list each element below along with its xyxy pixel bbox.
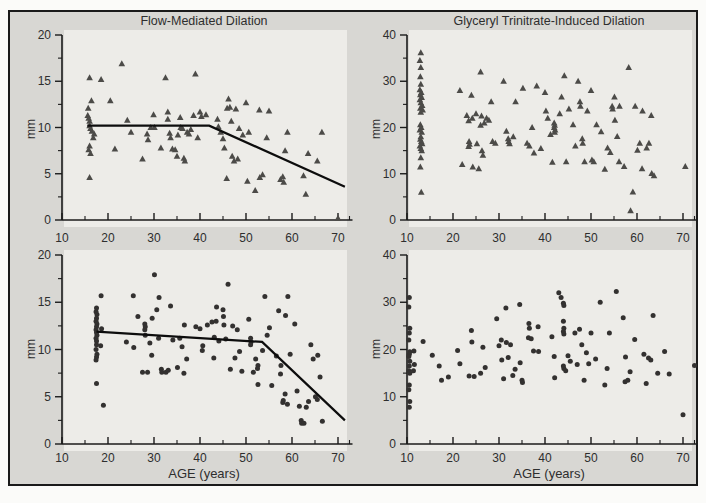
data-point — [582, 378, 587, 383]
svg-text:40: 40 — [538, 231, 552, 245]
data-point — [228, 367, 233, 372]
data-point — [527, 326, 532, 331]
data-point — [662, 349, 667, 354]
data-point — [152, 272, 157, 277]
svg-text:20: 20 — [38, 28, 52, 42]
data-point — [536, 324, 541, 329]
data-point — [411, 368, 416, 373]
data-point — [518, 360, 523, 365]
data-point — [285, 294, 290, 299]
svg-text:70: 70 — [331, 231, 345, 245]
svg-text:40: 40 — [193, 231, 207, 245]
data-point — [198, 326, 203, 331]
data-point — [304, 405, 309, 410]
data-point — [94, 357, 99, 362]
data-point — [255, 366, 260, 371]
data-point — [584, 350, 589, 355]
data-point — [292, 321, 297, 326]
data-point — [181, 371, 186, 376]
data-point — [513, 367, 518, 372]
svg-text:10: 10 — [55, 451, 69, 465]
svg-text:60: 60 — [630, 231, 644, 245]
data-point — [681, 412, 686, 417]
data-point — [517, 302, 522, 307]
panel-fmd-female: ♀ mm 0510152010203040506070 AGE (years) — [10, 250, 355, 486]
data-point — [278, 363, 283, 368]
data-point — [439, 378, 444, 383]
data-point — [124, 339, 129, 344]
data-point — [407, 295, 412, 300]
data-point — [467, 373, 472, 378]
svg-text:50: 50 — [584, 231, 598, 245]
data-point — [667, 372, 672, 377]
data-point — [407, 364, 412, 369]
data-point — [499, 338, 504, 343]
data-point — [200, 348, 205, 353]
data-point — [306, 399, 311, 404]
data-point — [94, 381, 99, 386]
data-point — [520, 380, 525, 385]
data-point — [265, 333, 270, 338]
data-point — [430, 353, 435, 358]
data-point — [552, 354, 557, 359]
data-point — [531, 348, 536, 353]
data-point — [469, 328, 474, 333]
x-axis-label: AGE (years) — [407, 466, 691, 481]
svg-text:70: 70 — [331, 451, 345, 465]
data-point — [101, 403, 106, 408]
panel-gtn-female: ♀ mm 01020304010203040506070 AGE (years) — [355, 250, 700, 486]
data-point — [248, 342, 253, 347]
data-point — [288, 352, 293, 357]
data-point — [184, 356, 189, 361]
svg-text:0: 0 — [389, 213, 396, 227]
svg-text:5: 5 — [44, 167, 51, 181]
data-point — [598, 300, 603, 305]
data-point — [157, 295, 162, 300]
data-point — [651, 313, 656, 318]
data-point — [575, 362, 580, 367]
figure-page: Flow-Mediated Dilation ♂ mm 051015201020… — [0, 0, 706, 503]
data-point — [561, 331, 566, 336]
data-point — [563, 368, 568, 373]
panel-gtn-male: Glyceryl Trinitrate-Induced Dilation ♂ m… — [355, 12, 700, 252]
svg-text:70: 70 — [676, 451, 690, 465]
data-point — [506, 355, 511, 360]
data-point — [655, 371, 660, 376]
svg-text:30: 30 — [492, 451, 506, 465]
data-point — [566, 353, 571, 358]
data-point — [692, 363, 697, 368]
data-point — [182, 322, 187, 327]
data-point — [572, 330, 577, 335]
svg-text:10: 10 — [38, 343, 52, 357]
data-point — [180, 344, 185, 349]
data-point — [135, 314, 140, 319]
data-point — [556, 290, 561, 295]
data-point — [98, 343, 103, 348]
data-point — [276, 308, 281, 313]
gtn-male-plot: 01020304010203040506070 — [355, 12, 700, 250]
data-point — [131, 345, 136, 350]
svg-text:50: 50 — [584, 451, 598, 465]
data-point — [407, 405, 412, 410]
svg-text:30: 30 — [147, 451, 161, 465]
data-point — [175, 365, 180, 370]
data-point — [623, 355, 628, 360]
data-point — [508, 342, 513, 347]
data-point — [209, 320, 214, 325]
data-point — [221, 307, 226, 312]
data-point — [497, 343, 502, 348]
data-point — [214, 319, 219, 324]
data-point — [142, 327, 147, 332]
data-point — [145, 370, 150, 375]
data-point — [407, 359, 412, 364]
data-point — [628, 369, 633, 374]
svg-text:40: 40 — [193, 451, 207, 465]
svg-text:50: 50 — [239, 451, 253, 465]
data-point — [211, 356, 216, 361]
data-point — [278, 372, 283, 377]
data-point — [406, 387, 411, 392]
data-point — [446, 374, 451, 379]
data-point — [235, 327, 240, 332]
svg-text:10: 10 — [55, 231, 69, 245]
data-point — [407, 326, 412, 331]
